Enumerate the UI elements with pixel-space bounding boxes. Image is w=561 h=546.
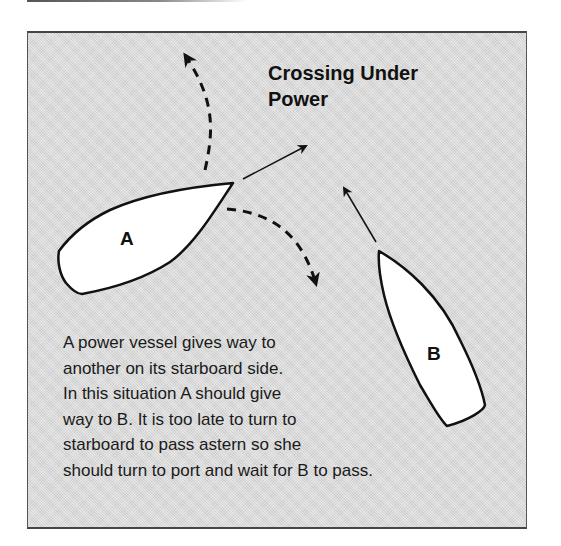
caption-line-4: way to B. It is too late to turn to (63, 407, 373, 433)
vessel-a-hull (58, 183, 233, 294)
title-line-1: Crossing Under (268, 60, 418, 86)
vessel-a-starboard-turn-arrow (227, 209, 316, 284)
vessel-a-label: A (120, 228, 134, 250)
diagram-caption: A power vessel gives way to another on i… (63, 330, 373, 483)
title-line-2: Power (268, 86, 418, 112)
caption-line-1: A power vessel gives way to (63, 330, 373, 356)
vessel-b-course-arrow (344, 188, 376, 242)
caption-line-5: starboard to pass astern so she (63, 432, 373, 458)
vessel-b-hull (379, 251, 485, 426)
vessel-a-port-turn-arrow (185, 55, 211, 170)
caption-line-2: another on its starboard side. (63, 356, 373, 382)
vessel-a-course-arrow (243, 146, 306, 179)
vessel-b-label: B (427, 343, 441, 365)
caption-line-6: should turn to port and wait for B to pa… (63, 458, 373, 484)
diagram-title: Crossing Under Power (268, 60, 418, 112)
caption-line-3: In this situation A should give (63, 381, 373, 407)
